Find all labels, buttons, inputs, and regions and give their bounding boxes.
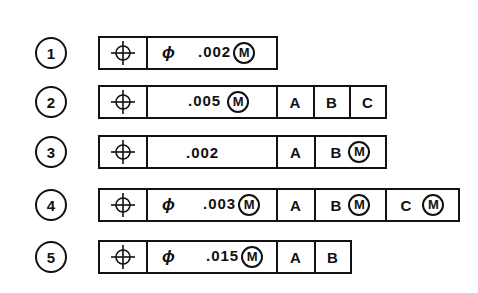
datum-b-cell: B M [314, 137, 385, 167]
datum-b-cell: B [313, 87, 349, 117]
tolerance-value: .005 [188, 92, 221, 109]
diameter-symbol: ϕ [162, 195, 176, 215]
tolerance-value: .002 [186, 144, 219, 161]
datum-b-cell: B [314, 242, 350, 272]
tolerance-cell: ϕ .003M [146, 190, 276, 220]
mmc-modifier-icon: M [238, 194, 260, 216]
control-frame-row-4: 4 ϕ .003M A B M C M [0, 188, 478, 222]
position-icon [100, 242, 146, 272]
mmc-modifier-icon: M [422, 194, 444, 216]
control-frame-row-1: 1 ϕ .002M [0, 36, 478, 70]
row-number-badge: 4 [35, 189, 67, 221]
feature-control-frame: ϕ .015M A B [98, 240, 352, 274]
tolerance-cell: ϕ .015M [146, 242, 276, 272]
feature-control-frame: .002 A B M [98, 135, 387, 169]
mmc-modifier-icon: M [227, 91, 249, 113]
tolerance-value: .015 [206, 247, 239, 264]
datum-label: B [331, 144, 343, 161]
row-number-badge: 1 [35, 37, 67, 69]
position-icon [100, 87, 146, 117]
row-number-badge: 3 [35, 136, 67, 168]
mmc-modifier-icon: M [348, 141, 370, 163]
datum-label: B [331, 197, 343, 214]
datum-a-cell: A [276, 242, 314, 272]
diameter-symbol: ϕ [162, 247, 176, 267]
mmc-modifier-icon: M [233, 42, 255, 64]
position-icon [100, 190, 146, 220]
datum-label: C [401, 197, 413, 214]
mmc-modifier-icon: M [241, 246, 263, 268]
tolerance-value: .003 [203, 195, 236, 212]
row-number-badge: 2 [35, 86, 67, 118]
tolerance-cell: .005M [146, 87, 276, 117]
mmc-modifier-icon: M [348, 194, 370, 216]
tolerance-cell: ϕ .002M [146, 38, 276, 68]
datum-a-cell: A [276, 137, 314, 167]
position-icon [100, 137, 146, 167]
control-frame-row-3: 3 .002 A B M [0, 135, 478, 169]
datum-c-cell: C [349, 87, 385, 117]
datum-a-cell: A [276, 87, 313, 117]
position-icon [100, 38, 146, 68]
feature-control-frame: ϕ .003M A B M C M [98, 188, 460, 222]
control-frame-row-5: 5 ϕ .015M A B [0, 240, 478, 274]
control-frame-row-2: 2 .005M A B C [0, 85, 478, 119]
row-number-badge: 5 [35, 241, 67, 273]
feature-control-frame: ϕ .002M [98, 36, 278, 70]
tolerance-cell: .002 [146, 137, 276, 167]
diameter-symbol: ϕ [162, 43, 176, 63]
tolerance-value: .002 [198, 43, 231, 60]
datum-b-cell: B M [314, 190, 385, 220]
datum-c-cell: C M [385, 190, 458, 220]
datum-a-cell: A [276, 190, 314, 220]
feature-control-frame: .005M A B C [98, 85, 387, 119]
